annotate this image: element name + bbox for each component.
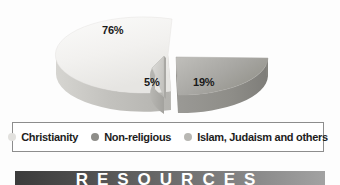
- pie-slice-islam-judaism-others: [176, 57, 268, 113]
- legend-item-other-faiths: Islam, Judaism and others: [184, 131, 328, 143]
- pie-chart-figure: 76% 5% 19%: [0, 0, 340, 118]
- pie-chart-graphic: [0, 0, 340, 118]
- pie-label-non-religious: 5%: [144, 76, 160, 88]
- legend-label-other-faiths: Islam, Judaism and others: [197, 131, 328, 143]
- resources-banner: RESOURCES: [15, 171, 325, 185]
- legend-dot-icon: [8, 133, 16, 141]
- resources-banner-title: RESOURCES: [76, 171, 265, 185]
- legend-item-non-religious: Non-religious: [91, 131, 171, 143]
- pie-label-christianity: 76%: [102, 24, 123, 36]
- legend-dot-icon: [184, 133, 192, 141]
- legend-item-christianity: Christianity: [8, 131, 78, 143]
- pie-label-other-faiths: 19%: [193, 76, 214, 88]
- legend-label-non-religious: Non-religious: [104, 131, 171, 143]
- chart-legend: Christianity Non-religious Islam, Judais…: [12, 122, 324, 152]
- legend-dot-icon: [91, 133, 99, 141]
- legend-label-christianity: Christianity: [21, 131, 78, 143]
- legend-item-list: Christianity Non-religious Islam, Judais…: [8, 131, 328, 143]
